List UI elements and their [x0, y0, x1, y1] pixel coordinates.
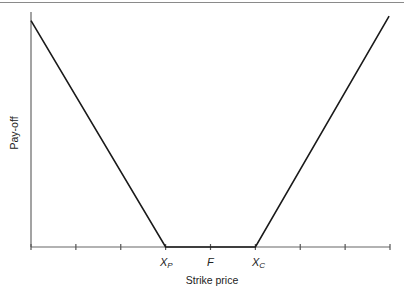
payoff-line — [31, 16, 389, 247]
tick-label-f: F — [207, 256, 215, 268]
y-axis-label: Pay-off — [8, 116, 20, 149]
x-axis-label: Strike price — [186, 274, 239, 286]
tick-label-xc: XC — [251, 256, 265, 270]
tick-label-xp: XP — [159, 256, 173, 270]
payoff-chart: XP F XC Strike price Pay-off — [0, 0, 404, 297]
